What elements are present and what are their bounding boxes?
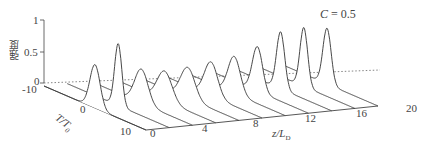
y-tick-4: 4 xyxy=(202,123,208,134)
pulse-trace xyxy=(90,69,192,125)
y-axis-label: z/LD xyxy=(272,128,291,142)
pulse-trace xyxy=(253,28,355,109)
x-tick-0: 0 xyxy=(80,104,86,115)
x-tick-10: 10 xyxy=(120,126,131,137)
pulse-traces xyxy=(44,28,378,131)
z-tick-1: 1 xyxy=(33,15,39,26)
y-tick-20: 20 xyxy=(406,103,417,114)
pulse-trace xyxy=(230,32,332,111)
pulse-trace xyxy=(276,28,378,106)
z-axis xyxy=(40,20,44,83)
x-tick-m10: -10 xyxy=(22,84,37,95)
y-tick-12: 12 xyxy=(305,113,316,124)
y-tick-16: 16 xyxy=(356,108,367,119)
annotation-c: C = 0.5 xyxy=(320,8,356,20)
z-axis-label: 强度 xyxy=(10,40,20,60)
y-tick-8: 8 xyxy=(253,118,259,129)
y-tick-0: 0 xyxy=(150,128,156,139)
z-tick-05: 0.5 xyxy=(24,47,38,58)
